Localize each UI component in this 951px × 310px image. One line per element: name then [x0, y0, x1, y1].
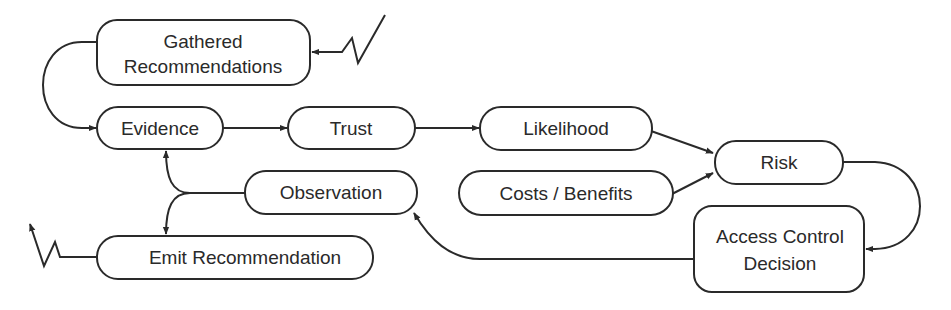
edge-gathered-to-evidence	[43, 42, 97, 128]
edge-access-to-observation	[414, 213, 694, 259]
node-label: Costs / Benefits	[499, 183, 632, 204]
node-costs-benefits: Costs / Benefits	[459, 171, 673, 215]
node-observation: Observation	[245, 171, 417, 214]
node-label: Evidence	[121, 118, 199, 139]
node-label: Emit Recommendation	[149, 247, 341, 268]
node-label: Likelihood	[523, 118, 609, 139]
node-label-line: Recommendations	[124, 56, 282, 77]
node-trust: Trust	[288, 107, 415, 149]
edge-observation-to-evidence	[166, 151, 190, 193]
node-risk: Risk	[715, 141, 843, 184]
node-access-control-decision: Access Control Decision	[694, 206, 864, 292]
node-emit-recommendation: Emit Recommendation	[97, 236, 373, 279]
edge-external-to-gathered	[312, 15, 385, 63]
node-label-line: Gathered	[163, 31, 242, 52]
node-label-line: Decision	[744, 253, 817, 274]
node-label: Risk	[761, 152, 798, 173]
node-evidence: Evidence	[97, 107, 223, 149]
edge-observation-to-emit	[166, 193, 190, 234]
edge-emit-to-external	[30, 224, 97, 266]
edge-likelihood-to-risk	[651, 131, 713, 153]
node-label: Trust	[330, 118, 373, 139]
trust-risk-flow-diagram: Gathered Recommendations Evidence Trust …	[0, 0, 951, 310]
node-likelihood: Likelihood	[480, 107, 652, 150]
node-gathered-recommendations: Gathered Recommendations	[97, 20, 310, 85]
node-label-line: Access Control	[716, 226, 844, 247]
node-label: Observation	[280, 182, 382, 203]
edge-costs-to-risk	[672, 173, 713, 194]
